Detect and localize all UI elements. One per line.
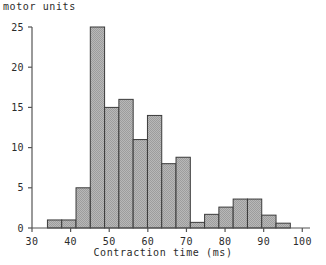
x-tick-label: 30 [26, 236, 39, 247]
histogram-bar [233, 199, 247, 228]
histogram-bar [147, 115, 161, 228]
histogram-bar [205, 214, 219, 228]
x-tick-label: 40 [64, 236, 77, 247]
histogram-bar [133, 140, 147, 228]
histogram-bar [247, 199, 261, 228]
y-tick-label: 20 [11, 62, 24, 73]
y-tick-label: 5 [18, 182, 24, 193]
histogram-bar [47, 220, 61, 228]
plot-area: 051015202530405060708090100 [11, 22, 312, 248]
x-tick-label: 70 [180, 236, 193, 247]
y-tick-label: 10 [11, 142, 24, 153]
histogram-bar [76, 188, 90, 228]
x-tick-label: 100 [293, 236, 312, 247]
histogram-bar [276, 223, 290, 228]
histogram-bar [162, 164, 176, 228]
x-tick-label: 80 [219, 236, 232, 247]
histogram-bar [62, 220, 76, 228]
histogram-bar [105, 107, 119, 228]
chart-canvas: 051015202530405060708090100 [0, 0, 326, 265]
histogram-bar [190, 222, 204, 228]
x-tick-label: 60 [141, 236, 154, 247]
histogram-bar [176, 157, 190, 228]
histogram-bar [262, 215, 276, 228]
histogram-bar [119, 99, 133, 228]
histogram-figure: motor units 051015202530405060708090100 … [0, 0, 326, 265]
histogram-bar [219, 207, 233, 228]
y-tick-label: 0 [18, 223, 24, 234]
x-axis-title: Contraction time (ms) [0, 247, 326, 258]
histogram-bar [90, 27, 104, 228]
y-tick-label: 15 [11, 102, 24, 113]
y-tick-label: 25 [11, 22, 24, 33]
x-tick-label: 90 [257, 236, 270, 247]
x-tick-label: 50 [103, 236, 116, 247]
